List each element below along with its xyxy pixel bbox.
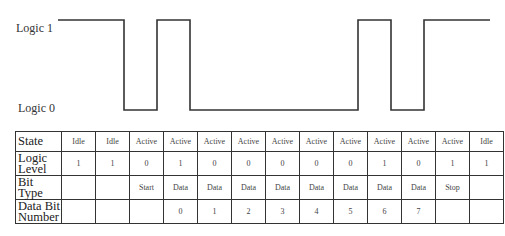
bit-type-cell: Data	[402, 176, 436, 200]
row-header-text: Level	[18, 162, 46, 176]
logic-level-cell: 1	[436, 152, 470, 176]
row-header-data-bit-number: Data BitNumber	[16, 200, 62, 224]
state-cell: Active	[368, 132, 402, 152]
logic-level-cell: 1	[470, 152, 504, 176]
bit-table: State IdleIdleActiveActiveActiveActiveAc…	[15, 131, 504, 224]
signal-waveform	[0, 0, 505, 125]
bit-type-cell: Data	[334, 176, 368, 200]
bit-number-cell	[62, 200, 96, 224]
bit-number-cell: 1	[198, 200, 232, 224]
bit-number-cell: 5	[334, 200, 368, 224]
logic-level-cell: 0	[130, 152, 164, 176]
bit-number-cell: 3	[266, 200, 300, 224]
row-logic-level: LogicLevel 1101000001011	[16, 152, 504, 176]
state-cell: Active	[266, 132, 300, 152]
logic-level-cell: 1	[62, 152, 96, 176]
row-header-bit-type: BitType	[16, 176, 62, 200]
state-cell: Idle	[470, 132, 504, 152]
bit-type-cell: Data	[198, 176, 232, 200]
logic-level-cell: 0	[300, 152, 334, 176]
bit-type-cell	[96, 176, 130, 200]
bit-type-cell	[62, 176, 96, 200]
bit-type-cell: Start	[130, 176, 164, 200]
logic-level-cell: 1	[368, 152, 402, 176]
row-header-text: Number	[18, 210, 59, 224]
state-cell: Active	[164, 132, 198, 152]
state-cell: Active	[198, 132, 232, 152]
row-bit-type: BitType StartDataDataDataDataDataDataDat…	[16, 176, 504, 200]
logic-level-cell: 0	[266, 152, 300, 176]
state-cell: Active	[334, 132, 368, 152]
state-cell: Idle	[96, 132, 130, 152]
logic-level-cell: 0	[334, 152, 368, 176]
row-state: State IdleIdleActiveActiveActiveActiveAc…	[16, 132, 504, 152]
bit-number-cell: 0	[164, 200, 198, 224]
bit-number-cell: 4	[300, 200, 334, 224]
bit-number-cell	[436, 200, 470, 224]
row-header-text: Type	[18, 186, 43, 200]
bit-number-cell	[130, 200, 164, 224]
waveform-line	[58, 20, 490, 110]
logic-level-cell: 0	[232, 152, 266, 176]
bit-type-cell: Data	[300, 176, 334, 200]
state-cell: Active	[300, 132, 334, 152]
bit-number-cell: 2	[232, 200, 266, 224]
state-cell: Active	[402, 132, 436, 152]
logic-level-cell: 0	[198, 152, 232, 176]
state-cell: Idle	[62, 132, 96, 152]
bit-type-cell: Data	[232, 176, 266, 200]
state-cell: Active	[232, 132, 266, 152]
state-cell: Active	[436, 132, 470, 152]
bit-type-cell: Data	[266, 176, 300, 200]
row-data-bit-number: Data BitNumber 01234567	[16, 200, 504, 224]
bit-number-cell: 6	[368, 200, 402, 224]
bit-type-cell	[470, 176, 504, 200]
row-header-logic-level: LogicLevel	[16, 152, 62, 176]
bit-type-cell: Stop	[436, 176, 470, 200]
bit-number-cell	[470, 200, 504, 224]
bit-type-cell: Data	[368, 176, 402, 200]
state-cell: Active	[130, 132, 164, 152]
row-header-text: State	[18, 134, 43, 148]
row-header-state: State	[16, 132, 62, 152]
logic-level-cell: 1	[164, 152, 198, 176]
bit-type-cell: Data	[164, 176, 198, 200]
bit-number-cell: 7	[402, 200, 436, 224]
bit-number-cell	[96, 200, 130, 224]
logic-level-cell: 0	[402, 152, 436, 176]
logic-level-cell: 1	[96, 152, 130, 176]
